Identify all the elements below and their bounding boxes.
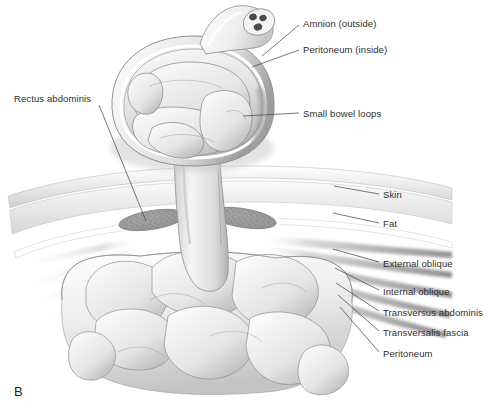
- umbilical-cord-stump: [200, 5, 278, 54]
- label-external_oblique: External oblique: [383, 258, 453, 269]
- label-skin: Skin: [383, 189, 402, 200]
- omphalocele-sac: [110, 36, 274, 172]
- label-internal_oblique: Internal oblique: [383, 286, 450, 297]
- label-small_bowel_loops: Small bowel loops: [303, 108, 381, 119]
- label-amnion: Amnion (outside): [303, 18, 376, 29]
- label-fat: Fat: [383, 218, 397, 229]
- label-rectus_abdominis: Rectus abdominis: [14, 93, 91, 104]
- sac-bowel-loops: [128, 62, 252, 158]
- label-transversalis_fascia: Transversalis fascia: [383, 327, 469, 338]
- label-peritoneum_inside: Peritoneum (inside): [303, 44, 387, 55]
- label-peritoneum_wall: Peritoneum: [383, 348, 433, 359]
- leader-line-peritoneum_inside: [252, 50, 299, 67]
- panel-label: B: [14, 384, 23, 399]
- label-transversus_abdominis: Transversus abdominis: [383, 307, 483, 318]
- leader-line-fat: [333, 213, 379, 223]
